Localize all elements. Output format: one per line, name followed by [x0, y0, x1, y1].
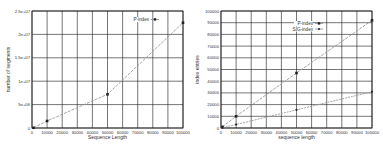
y-tick-label: 60000 [207, 55, 219, 60]
data-point-marker [46, 120, 49, 123]
x-tick-label: 90000 [351, 130, 363, 135]
series-sig-index [221, 91, 373, 129]
x-tick-label: 70000 [321, 130, 333, 135]
svg-text:SIG-index: SIG-index [293, 27, 314, 32]
legend-entry: P-index [130, 17, 159, 22]
x-tick-label: 100000 [176, 130, 190, 135]
data-point-marker [371, 91, 373, 93]
data-point-marker [32, 126, 35, 129]
data-point-marker [182, 21, 185, 24]
data-point-marker [106, 93, 109, 96]
y-tick-label: 50000 [207, 67, 219, 72]
x-tick-label: 100000 [365, 130, 380, 135]
y-tick-label: 2e+07 [18, 32, 30, 37]
x-axis-label: Sequence Length [88, 134, 127, 140]
y-tick-label: 70000 [207, 44, 219, 49]
segments-chart-svg: 0100002000030000400005000060000700008000… [0, 0, 190, 147]
x-tick-label: 10000 [41, 130, 53, 135]
y-tick-label: 5e+06 [18, 102, 30, 107]
y-axis-label: index entries [194, 55, 200, 84]
y-tick-label: 1.5e+07 [15, 55, 31, 60]
x-tick-label: 10000 [230, 130, 242, 135]
y-tick-label: 40000 [207, 79, 219, 84]
svg-text:P-index: P-index [133, 17, 149, 22]
data-point-marker [371, 19, 374, 22]
index-entries-chart-svg: 0100002000030000400005000060000700008000… [190, 0, 383, 147]
y-tick-label: 90000 [207, 20, 219, 25]
data-point-marker [235, 115, 238, 118]
y-tick-label: 20000 [207, 102, 219, 107]
x-axis-label: sequence length [278, 134, 315, 140]
y-tick-label: 100000 [205, 9, 220, 14]
svg-text:P-index: P-index [297, 21, 313, 26]
series-p-index [221, 19, 373, 128]
y-tick-label: 80000 [207, 32, 219, 37]
plot-grid [32, 11, 183, 128]
x-tick-label: 80000 [336, 130, 348, 135]
data-point-marker [295, 72, 298, 75]
segments-chart: 0100002000030000400005000060000700008000… [0, 0, 190, 147]
x-tick-label: 20000 [245, 130, 257, 135]
x-tick-label: 70000 [132, 130, 144, 135]
y-tick-label: 10000 [207, 114, 219, 119]
data-point-marker [235, 123, 237, 125]
data-point-marker [295, 109, 297, 111]
x-tick-label: 80000 [147, 130, 159, 135]
x-tick-label: 90000 [162, 130, 174, 135]
x-tick-label: 0 [31, 130, 34, 135]
data-point-marker [221, 127, 223, 129]
series-p-index [32, 21, 184, 129]
index-entries-chart: 0100002000030000400005000060000700008000… [190, 0, 383, 147]
y-tick-label: 1e+07 [18, 79, 30, 84]
y-tick-label: 2.5e+07 [15, 9, 31, 14]
x-tick-label: 30000 [260, 130, 272, 135]
legend-entry: SIG-index [293, 27, 323, 32]
y-axis-label: number of segments [5, 46, 11, 92]
y-tick-label: 30000 [207, 90, 219, 95]
legend-entry: P-index [294, 21, 323, 26]
x-tick-label: 20000 [56, 130, 68, 135]
x-tick-label: 30000 [71, 130, 83, 135]
x-tick-label: 0 [220, 130, 223, 135]
